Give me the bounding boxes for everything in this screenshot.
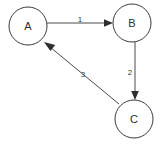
edge-b-to-c[interactable]: 2 <box>128 42 139 100</box>
directed-graph-svg: 1 2 3 A B <box>0 0 166 144</box>
diagram-canvas: 1 2 3 A B <box>0 0 166 144</box>
edge-c-to-a-label: 3 <box>81 70 86 79</box>
edge-b-to-c-label: 2 <box>128 68 133 77</box>
node-b-label: B <box>128 17 135 29</box>
edge-a-to-b-label: 1 <box>78 15 83 24</box>
edge-b-to-c-arrowhead <box>131 91 139 100</box>
edge-a-to-b-arrowhead <box>104 19 113 27</box>
node-c-label: C <box>130 113 138 125</box>
node-c[interactable]: C <box>115 100 153 138</box>
node-b[interactable]: B <box>113 4 151 42</box>
edge-a-to-b[interactable]: 1 <box>47 15 113 27</box>
node-a[interactable]: A <box>9 7 47 45</box>
node-a-label: A <box>24 20 32 32</box>
edge-c-to-a[interactable]: 3 <box>44 42 119 104</box>
